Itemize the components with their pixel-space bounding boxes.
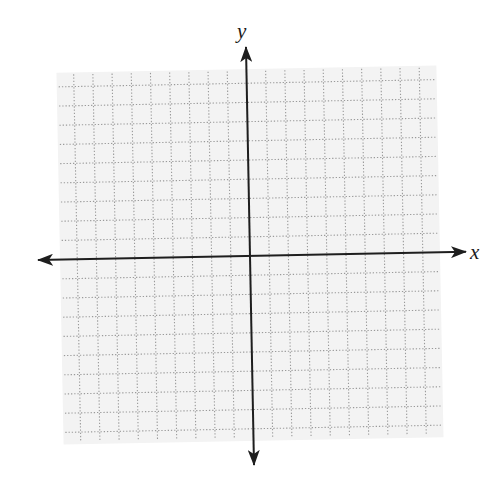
x-axis-label: x: [469, 240, 480, 264]
y-axis-label: y: [235, 19, 247, 43]
coordinate-plane: y x: [0, 0, 497, 477]
plane-group: [34, 43, 470, 469]
